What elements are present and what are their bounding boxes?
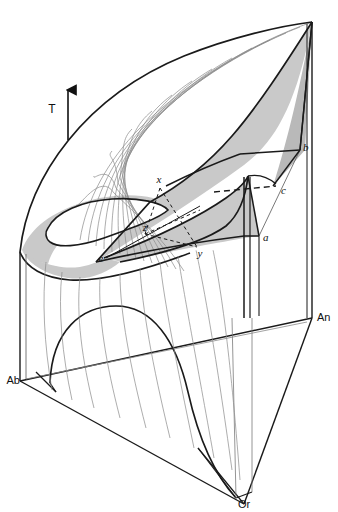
corner-label-an: An	[317, 311, 330, 323]
point-label-z: z	[142, 221, 148, 233]
ternary-diagram-svg: T Ab An Or a b c e x y z	[0, 0, 338, 512]
base-edge-or-to-an	[244, 318, 312, 504]
point-label-b: b	[303, 141, 309, 153]
ab-or-front-face	[20, 306, 312, 504]
base-edge-ab-to-an-thin	[26, 322, 307, 379]
point-label-e: e	[99, 252, 104, 264]
point-label-y: y	[197, 247, 203, 259]
corner-label-or: Or	[238, 498, 251, 510]
point-label-c: c	[281, 184, 286, 196]
solvus-dome-arch	[50, 306, 236, 498]
temperature-axis: T	[48, 90, 68, 140]
edge-b-to-c	[259, 150, 300, 236]
arc-c-to-peak	[248, 175, 276, 184]
point-label-x: x	[156, 173, 162, 185]
temperature-label: T	[48, 102, 56, 116]
point-label-a: a	[263, 231, 269, 243]
corner-label-ab: Ab	[7, 374, 20, 386]
phase-diagram-figure: T Ab An Or a b c e x y z	[0, 0, 338, 512]
base-edge-ab-to-or	[20, 381, 244, 504]
ab-face-edges	[20, 252, 26, 381]
